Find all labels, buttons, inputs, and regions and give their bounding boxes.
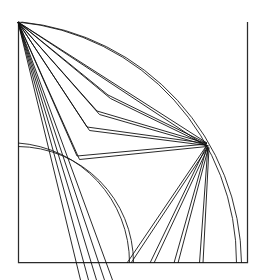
- apex-ray-steep-c: [18, 22, 97, 280]
- inner-quarter-arc-outer-edge: [18, 147, 134, 264]
- hub-fan-group: [127, 145, 209, 263]
- apex-ray-steep-b: [18, 22, 105, 280]
- frame-group: [19, 22, 248, 263]
- bounding-frame: [19, 22, 248, 263]
- figure-root: Quarter-annulus geodesic fan diagram: [0, 0, 264, 280]
- apex-ray-steep-e: [18, 22, 81, 280]
- hub-ray-3-edge-a: [174, 145, 208, 263]
- geometry-canvas: [0, 0, 264, 280]
- outer-arc-group: [18, 22, 242, 263]
- apex-fan-group: [18, 22, 207, 280]
- hub-ray-1-edge-b: [131, 148, 208, 264]
- inner-arc-group: [18, 143, 134, 263]
- hub-ray-1-edge-a: [127, 145, 207, 263]
- hub-ray-2-edge-b: [154, 148, 208, 264]
- hub-ray-2-edge-a: [150, 145, 207, 263]
- chevron-4-edge-a: [18, 22, 207, 156]
